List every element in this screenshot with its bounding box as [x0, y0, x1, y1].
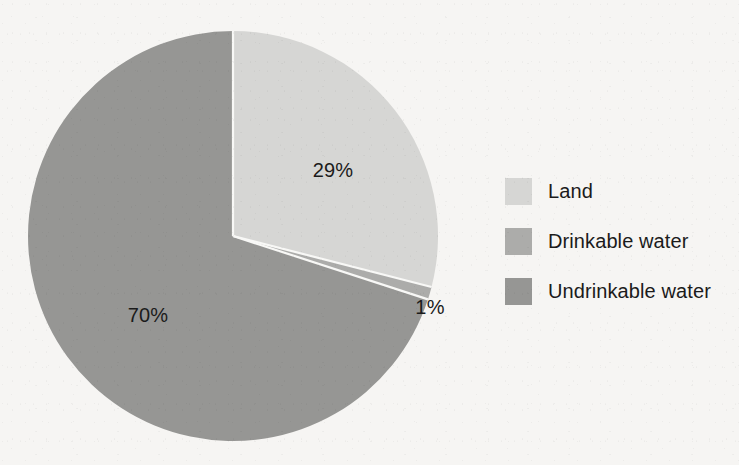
- legend-label-land: Land: [548, 180, 593, 203]
- slice-value-label-undrinkable-water: 70%: [128, 304, 169, 327]
- legend-item-drinkable-water[interactable]: Drinkable water: [505, 216, 711, 266]
- slice-value-label-land: 29%: [313, 159, 354, 182]
- legend-label-drinkable-water: Drinkable water: [548, 230, 688, 253]
- legend-label-undrinkable-water: Undrinkable water: [548, 280, 711, 303]
- chart-legend: Land Drinkable water Undrinkable water: [505, 166, 711, 316]
- slice-value-label-drinkable-water: 1%: [415, 296, 444, 319]
- legend-swatch-drinkable-water-icon: [505, 228, 532, 255]
- legend-item-undrinkable-water[interactable]: Undrinkable water: [505, 266, 711, 316]
- legend-swatch-undrinkable-water-icon: [505, 278, 532, 305]
- legend-item-land[interactable]: Land: [505, 166, 711, 216]
- legend-swatch-land-icon: [505, 178, 532, 205]
- pie-chart-figure: 29% 70% 1% Land Drinkable water Undrinka…: [0, 0, 739, 465]
